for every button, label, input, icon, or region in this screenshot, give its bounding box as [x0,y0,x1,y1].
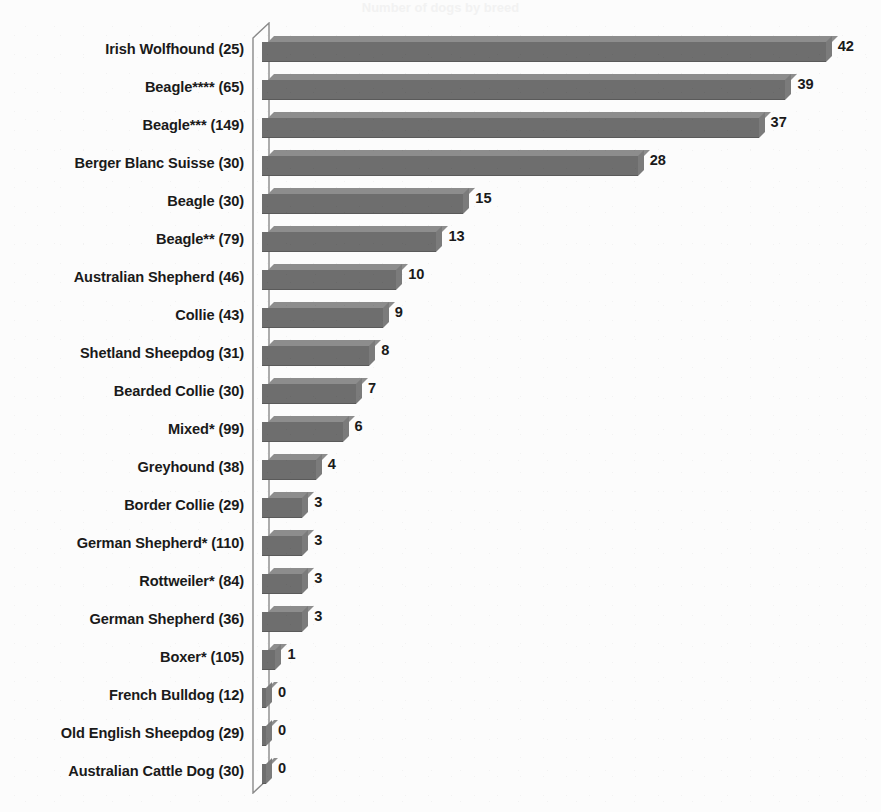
bar[interactable] [262,36,826,64]
bar-row: Beagle**** (65)39 [0,68,881,106]
bar[interactable] [262,112,759,140]
bar[interactable] [262,720,266,748]
bar[interactable] [262,530,302,558]
bar-value-label: 1 [287,644,295,664]
bar-row: Bearded Collie (30)7 [0,372,881,410]
bar-row: Old English Sheepdog (29)0 [0,714,881,752]
bar-side-face [302,492,308,518]
bar-value-label: 37 [771,112,787,132]
bar-row: Australian Cattle Dog (30)0 [0,752,881,790]
bar[interactable] [262,74,785,102]
bar-side-face [302,530,308,556]
bar-value-label: 3 [314,530,322,550]
bar-front-face [262,536,302,556]
bar-value-label: 15 [475,188,491,208]
bar-value-label: 10 [408,264,424,284]
category-label: Beagle**** (65) [0,68,244,106]
category-label: Irish Wolfhound (25) [0,30,244,68]
bar-row: Collie (43)9 [0,296,881,334]
bar[interactable] [262,682,266,710]
bar-row: Berger Blanc Suisse (30)28 [0,144,881,182]
bar[interactable] [262,492,302,520]
bar-side-face [266,758,272,784]
category-label: Shetland Sheepdog (31) [0,334,244,372]
bar-value-label: 8 [381,340,389,360]
bar-value-label: 7 [368,378,376,398]
bar-value-label: 6 [355,416,363,436]
bar[interactable] [262,568,302,596]
bar-value-label: 3 [314,492,322,512]
bar-row: Greyhound (38)4 [0,448,881,486]
bar[interactable] [262,454,316,482]
bar[interactable] [262,378,356,406]
category-label: Beagle** (79) [0,220,244,258]
bar-side-face [759,112,765,138]
bar-value-label: 39 [797,74,813,94]
category-label: Collie (43) [0,296,244,334]
bar[interactable] [262,226,436,254]
bar[interactable] [262,150,638,178]
bar-row: Beagle** (79)13 [0,220,881,258]
bar-side-face [785,74,791,100]
bar[interactable] [262,416,343,444]
bar-side-face [343,416,349,442]
bar-front-face [262,156,638,176]
category-label: Mixed* (99) [0,410,244,448]
bar-value-label: 9 [395,302,403,322]
bar-value-label: 0 [278,720,286,740]
bar-front-face [262,80,785,100]
bar-row: Mixed* (99)6 [0,410,881,448]
bar-front-face [262,42,826,62]
bar-side-face [302,606,308,632]
category-label: Beagle (30) [0,182,244,220]
bar-row: Beagle (30)15 [0,182,881,220]
bar-side-face [316,454,322,480]
bar[interactable] [262,340,369,368]
bar-front-face [262,384,356,404]
bar[interactable] [262,264,396,292]
bar-row: German Shepherd (36)3 [0,600,881,638]
category-label: Old English Sheepdog (29) [0,714,244,752]
category-label: Border Collie (29) [0,486,244,524]
category-label: French Bulldog (12) [0,676,244,714]
bar-front-face [262,232,436,252]
bar-row: German Shepherd* (110)3 [0,524,881,562]
bar[interactable] [262,644,275,672]
bar-front-face [262,422,343,442]
bar-front-face [262,194,463,214]
category-label: German Shepherd* (110) [0,524,244,562]
bar[interactable] [262,302,383,330]
bar-side-face [275,644,281,670]
bar-side-face [266,720,272,746]
category-label: Boxer* (105) [0,638,244,676]
bar-front-face [262,270,396,290]
bar-row: Rottweiler* (84)3 [0,562,881,600]
bar[interactable] [262,758,266,786]
category-label: Australian Shepherd (46) [0,258,244,296]
bar-row: Australian Shepherd (46)10 [0,258,881,296]
bar-front-face [262,118,759,138]
bar-side-face [396,264,402,290]
chart-title-faint: Number of dogs by breed [0,0,881,16]
bar-row: Border Collie (29)3 [0,486,881,524]
bar-value-label: 0 [278,682,286,702]
bar-front-face [262,612,302,632]
chart-page: Number of dogs by breed Irish Wolfhound … [0,0,881,812]
category-label: Berger Blanc Suisse (30) [0,144,244,182]
bar-value-label: 42 [838,36,854,56]
bar-row: Shetland Sheepdog (31)8 [0,334,881,372]
bar[interactable] [262,606,302,634]
bar-row: French Bulldog (12)0 [0,676,881,714]
category-label: Rottweiler* (84) [0,562,244,600]
bar-front-face [262,574,302,594]
bar-front-face [262,650,275,670]
bar-side-face [638,150,644,176]
category-label: Australian Cattle Dog (30) [0,752,244,790]
bar-front-face [262,346,369,366]
category-label: German Shepherd (36) [0,600,244,638]
bar-side-face [463,188,469,214]
category-label: Greyhound (38) [0,448,244,486]
bar[interactable] [262,188,463,216]
bar-value-label: 3 [314,568,322,588]
bar-front-face [262,460,316,480]
